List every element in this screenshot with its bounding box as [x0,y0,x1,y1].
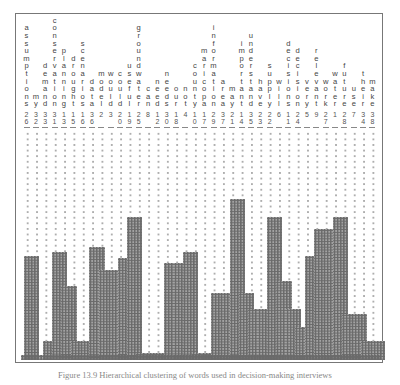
leaf-label: conservation [50,17,59,108]
leaf-tick [248,127,254,128]
leaf-id: 14 [237,112,246,125]
leaf-tick [304,127,310,128]
leaf-label: supply [265,62,274,108]
leaf-id: 32 [31,112,40,125]
leaf-tick [98,127,104,128]
leaf-label: future [340,62,349,108]
leaf-tick [24,127,30,128]
leaf-id: 34 [359,112,368,125]
leaf-id: 12 [153,112,162,125]
leaf-tick [33,127,39,128]
leaf-tick [89,127,95,128]
leaf-label: drought [69,55,78,108]
leaf-id: 8 [144,112,153,119]
leaf-id: 33 [41,112,50,125]
leaf-label: information [209,24,218,108]
leaf-tick [201,127,207,128]
leaf-tick [126,127,132,128]
leaf-tick [192,127,198,128]
leaf-id: 10 [190,112,199,125]
leaf-label: very [303,78,312,108]
leaf-id: 21 [228,112,237,125]
leaf-tick [323,127,329,128]
leaf-id: 5 [303,112,312,119]
leaf-label: demand [41,62,50,108]
leaf-tick [239,127,245,128]
leaf-label: decisions [284,40,293,108]
leaf-label: make [368,78,377,108]
leaf-label: needs [162,70,171,108]
cluster-bar [24,256,39,360]
leaf-tick [211,127,217,128]
leaf-id: 6 [274,112,283,119]
leaf-id: 31 [50,112,59,125]
leaf-label: work [321,78,330,108]
leaf-label: area [218,78,227,108]
leaf-label: important [237,40,246,108]
leaf-label: would [106,70,115,108]
leaf-id: 35 [246,112,255,125]
leaf-id: 9 [312,112,321,119]
leaf-id: 28 [340,112,349,125]
leaf-id: 38 [368,112,377,125]
leaf-id: 4 [181,112,190,119]
leaf-label: understand [246,32,255,108]
leaf-tick [80,127,86,128]
leaf-label: scenarios [78,40,87,108]
leaf-id: 17 [200,112,209,125]
leaf-id: 1 [331,112,340,119]
leaf-tick [117,127,123,128]
leaf-id: 2 [97,112,106,119]
leaf-id: 22 [265,112,274,125]
leaf-label: may [228,85,237,108]
leaf-label: can [144,85,153,108]
leaf-tick [52,127,58,128]
leaf-id: 29 [209,112,218,125]
leaf-id: 23 [256,112,265,125]
leaf-tick [61,127,67,128]
leaf-tick [173,127,179,128]
leaf-tick [313,127,319,128]
leaf-label: use [349,85,358,108]
root-bar [21,355,381,360]
cluster-bar [183,252,198,361]
leaf-id: 7 [349,112,358,119]
leaf-tick [164,127,170,128]
leaf-tick [276,127,282,128]
leaf-id: 19 [125,112,134,125]
leaf-label: our [172,85,181,108]
leaf-label: could [116,70,125,108]
leaf-id: 24 [293,112,302,125]
leaf-label: maricopa [200,47,209,108]
leaf-tick [136,127,142,128]
leaf-label: county [190,62,199,108]
leaf-tick [182,127,188,128]
leaf-id: 3 [106,112,115,119]
leaf-label: my [31,93,40,108]
leaf-tick [220,127,226,128]
leaf-id: 18 [172,112,181,125]
leaf-tick [145,127,151,128]
leaf-tick [369,127,375,128]
leaf-label: decision [293,47,302,108]
leaf-label: their [359,70,368,108]
leaf-id: 11 [284,112,293,125]
leaf-id: 15 [69,112,78,125]
leaf-tick [154,127,160,128]
leaf-label: planning [59,47,68,108]
leaf-tick [42,127,48,128]
leaf-label: useful [125,62,134,108]
leaf-label: data [87,78,96,108]
figure-caption: Figure 13.9 Hierarchical clustering of w… [58,370,332,380]
leaf-label: groundwater [134,24,143,108]
leaf-id: 26 [22,112,31,125]
leaf-label: will [274,78,283,108]
leaf-id: 16 [78,112,87,125]
leaf-tick [360,127,366,128]
leaf-id: 13 [59,112,68,125]
leaf-tick [70,127,76,128]
leaf-id: 30 [162,112,171,125]
leaf-id: 37 [218,112,227,125]
plot-area [21,130,381,360]
leaf-tick [341,127,347,128]
